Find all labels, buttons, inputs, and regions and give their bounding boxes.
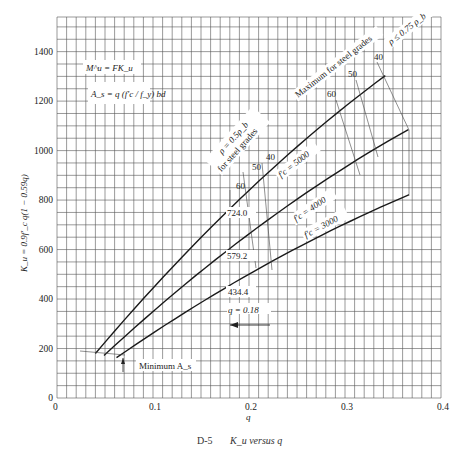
x-tick-label: 0.3 — [341, 402, 353, 412]
q-marker-label: q = 0.18 — [228, 305, 259, 315]
y-tick-label: 800 — [39, 195, 54, 205]
minimum-marker — [80, 351, 125, 372]
y-axis-label: K_u = 0.9f'_c q(1 − 0.59q) — [19, 174, 29, 273]
formula2: A_s = q (f'c / f_y) bd — [90, 89, 166, 99]
value-724: 724.0 — [227, 208, 248, 218]
grade-max-40: 40 — [374, 52, 384, 62]
grade-half-50: 50 — [252, 162, 262, 172]
formula1: M^u = FK_u — [85, 63, 133, 73]
x-tick-label: 0 — [53, 402, 58, 412]
value-434: 434.4 — [228, 287, 249, 297]
y-tick-label: 200 — [39, 344, 54, 354]
x-tick-label: 0.2 — [245, 402, 257, 412]
y-tick-label: 1200 — [34, 96, 53, 106]
y-tick-label: 1000 — [34, 146, 53, 156]
q-marker-arrow — [230, 322, 270, 328]
x-tick-label: 0.1 — [149, 402, 161, 412]
grade-max-60: 60 — [327, 89, 337, 99]
x-axis-label: q — [246, 412, 251, 422]
grade-half-60: 60 — [236, 181, 246, 191]
caption-id: D-5 — [197, 435, 213, 446]
grade-max-50: 50 — [348, 69, 358, 79]
minimum-label: Minimum A_s — [139, 361, 192, 371]
grade-half-40: 40 — [266, 152, 276, 162]
rho-max-label: Maximum for steel grades — [291, 26, 383, 102]
series-line-3000 — [117, 195, 410, 358]
y-tick-label: 400 — [39, 294, 54, 304]
value-579: 579.2 — [227, 251, 247, 261]
caption-text: K_u versus q — [229, 435, 282, 446]
chart: 00.10.20.30.40200400600800100012001400 M… — [0, 0, 463, 463]
grade-lines-max — [336, 62, 409, 194]
x-tick-label: 0.4 — [437, 402, 449, 412]
y-tick-label: 0 — [48, 393, 53, 403]
y-tick-label: 600 — [39, 245, 54, 255]
y-tick-label: 1400 — [34, 47, 53, 57]
